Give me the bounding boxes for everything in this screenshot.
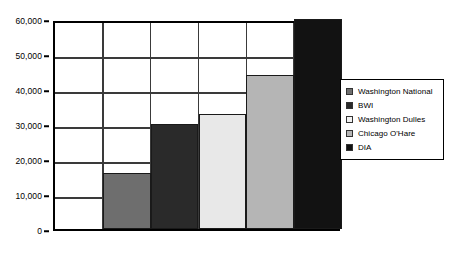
bar xyxy=(294,19,342,229)
y-axis-tick-mark xyxy=(44,195,49,197)
y-axis-tick-label: 30,000 xyxy=(15,121,42,131)
y-axis-tick-mark xyxy=(44,20,49,22)
y-axis-tick-mark xyxy=(44,90,49,92)
y-axis-tick-label: 40,000 xyxy=(15,86,42,96)
legend-item: DIA xyxy=(346,140,438,154)
y-axis-tick-mark xyxy=(44,160,49,162)
legend-item: Chicago O'Hare xyxy=(346,126,438,140)
legend-item: BWI xyxy=(346,98,438,112)
legend-swatch-icon xyxy=(346,88,353,95)
bar-chart: 010,00020,00030,00040,00050,00060,000 Wa… xyxy=(0,0,450,258)
y-axis: 010,00020,00030,00040,00050,00060,000 xyxy=(0,0,53,258)
legend-item: Washington Dulles xyxy=(346,112,438,126)
y-axis-tick-label: 60,000 xyxy=(15,16,42,26)
legend-item: Washington National xyxy=(346,84,438,98)
y-axis-tick-label: 50,000 xyxy=(15,51,42,61)
legend-swatch-icon xyxy=(346,130,353,137)
y-axis-tick-label: 10,000 xyxy=(15,191,42,201)
y-axis-tick-label: 20,000 xyxy=(15,156,42,166)
y-axis-tick-mark xyxy=(44,125,49,127)
legend-item-label: Washington Dulles xyxy=(358,115,425,124)
y-axis-tick-mark xyxy=(44,55,49,57)
bar xyxy=(246,75,294,229)
y-axis-tick-mark xyxy=(44,230,49,232)
bar xyxy=(103,173,151,229)
legend-item-label: Washington National xyxy=(358,87,432,96)
legend-swatch-icon xyxy=(346,144,353,151)
legend-swatch-icon xyxy=(346,116,353,123)
legend-item-label: BWI xyxy=(358,101,373,110)
bars xyxy=(55,23,338,229)
bar xyxy=(151,124,199,229)
y-axis-tick-label: 0 xyxy=(37,226,42,236)
legend-item-label: Chicago O'Hare xyxy=(358,129,415,138)
plot-area xyxy=(53,21,340,231)
legend: Washington NationalBWIWashington DullesC… xyxy=(340,79,444,160)
legend-swatch-icon xyxy=(346,102,353,109)
bar xyxy=(199,114,247,230)
legend-item-label: DIA xyxy=(358,143,372,152)
